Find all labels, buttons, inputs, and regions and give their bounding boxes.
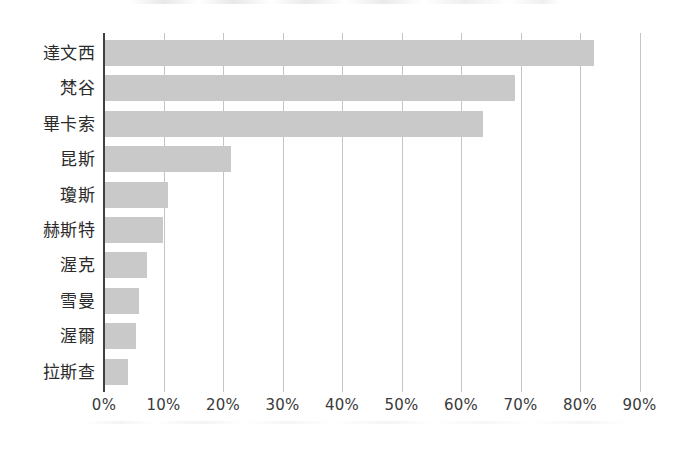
category-label-row: 瓊斯 <box>0 182 95 208</box>
bar-chart-plot-area: 達文西梵谷畢卡索昆斯瓊斯赫斯特渥克雪曼渥爾拉斯查 0%10%20%30%40%5… <box>0 0 689 450</box>
category-label-row: 畢卡索 <box>0 111 95 137</box>
bar-4 <box>104 146 231 172</box>
gridline-70 <box>521 33 522 392</box>
bar-1 <box>104 40 594 66</box>
bar-7 <box>104 252 147 278</box>
category-label-row: 渥爾 <box>0 323 95 349</box>
category-label-row: 梵谷 <box>0 75 95 101</box>
category-label: 赫斯特 <box>3 217 95 243</box>
x-tick-label: 50% <box>372 396 432 414</box>
gridline-90 <box>640 33 641 392</box>
category-label-row: 雪曼 <box>0 288 95 314</box>
category-label: 拉斯查 <box>3 359 95 385</box>
category-label: 達文西 <box>3 40 95 66</box>
chart-canvas: 達文西梵谷畢卡索昆斯瓊斯赫斯特渥克雪曼渥爾拉斯查 0%10%20%30%40%5… <box>0 0 689 450</box>
bar-5 <box>104 182 168 208</box>
x-tick-label: 70% <box>491 396 551 414</box>
x-tick-label: 20% <box>193 396 253 414</box>
category-label: 畢卡索 <box>3 111 95 137</box>
category-label: 梵谷 <box>3 75 95 101</box>
x-tick-label: 80% <box>550 396 610 414</box>
bar-2 <box>104 75 515 101</box>
category-label-row: 拉斯查 <box>0 359 95 385</box>
x-tick-label: 40% <box>312 396 372 414</box>
x-tick-label: 0% <box>74 396 134 414</box>
x-tick-label: 30% <box>253 396 313 414</box>
category-label: 昆斯 <box>3 146 95 172</box>
x-tick-label: 90% <box>610 396 670 414</box>
category-label-row: 赫斯特 <box>0 217 95 243</box>
category-label-row: 達文西 <box>0 40 95 66</box>
x-tick-label: 60% <box>431 396 491 414</box>
x-tick-label: 10% <box>134 396 194 414</box>
bar-10 <box>104 359 128 385</box>
category-label: 渥爾 <box>3 323 95 349</box>
y-axis-line <box>103 33 105 392</box>
bar-3 <box>104 111 483 137</box>
category-label-row: 昆斯 <box>0 146 95 172</box>
gridline-80 <box>580 33 581 392</box>
category-label-row: 渥克 <box>0 252 95 278</box>
category-label: 雪曼 <box>3 288 95 314</box>
category-label: 渥克 <box>3 252 95 278</box>
category-label: 瓊斯 <box>3 182 95 208</box>
bar-9 <box>104 323 136 349</box>
bar-8 <box>104 288 139 314</box>
bar-6 <box>104 217 163 243</box>
